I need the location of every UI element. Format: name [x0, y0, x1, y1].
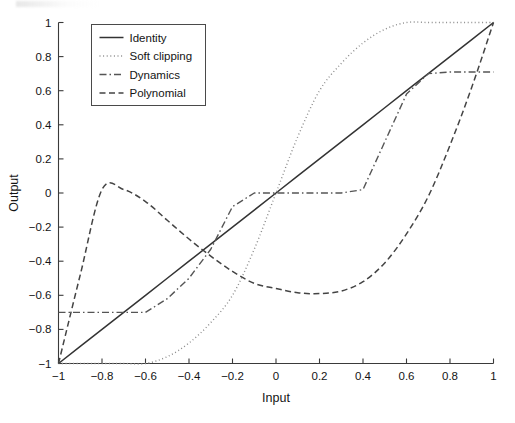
x-tick-label: −0.2	[221, 370, 244, 382]
legend-label-polynomial: Polynomial	[130, 87, 186, 99]
y-tick-label: 0.6	[36, 85, 52, 97]
x-tick-label: −0.8	[91, 370, 114, 382]
x-tick-label: 1	[490, 370, 496, 382]
x-tick-label: −0.6	[134, 370, 157, 382]
x-tick-label: 0.4	[355, 370, 372, 382]
x-tick-label: 0.6	[399, 370, 415, 382]
y-axis-title: Output	[7, 174, 21, 212]
y-tick-label: −0.6	[29, 289, 52, 301]
y-tick-label: −1	[38, 358, 51, 370]
x-axis-title: Input	[262, 391, 290, 405]
legend-label-dynamics: Dynamics	[130, 69, 181, 81]
legend-label-soft-clipping: Soft clipping	[130, 50, 193, 62]
x-tick-label: 0.2	[312, 370, 328, 382]
y-tick-label: 0.4	[36, 119, 53, 131]
figure-canvas: −1−0.8−0.6−0.4−0.200.20.40.60.81−1−0.8−0…	[0, 0, 515, 423]
y-tick-label: −0.4	[29, 255, 52, 267]
transfer-function-chart: −1−0.8−0.6−0.4−0.200.20.40.60.81−1−0.8−0…	[0, 0, 515, 423]
y-tick-label: −0.2	[29, 221, 52, 233]
x-tick-label: 0.8	[442, 370, 458, 382]
x-tick-label: 0	[273, 370, 279, 382]
x-tick-label: −1	[52, 370, 65, 382]
y-tick-label: 0.2	[36, 153, 52, 165]
y-tick-label: 1	[45, 17, 51, 29]
legend-label-identity: Identity	[130, 32, 167, 44]
x-tick-label: −0.4	[178, 370, 201, 382]
y-tick-label: −0.8	[29, 323, 52, 335]
y-tick-label: 0.8	[36, 51, 52, 63]
y-tick-label: 0	[45, 187, 51, 199]
